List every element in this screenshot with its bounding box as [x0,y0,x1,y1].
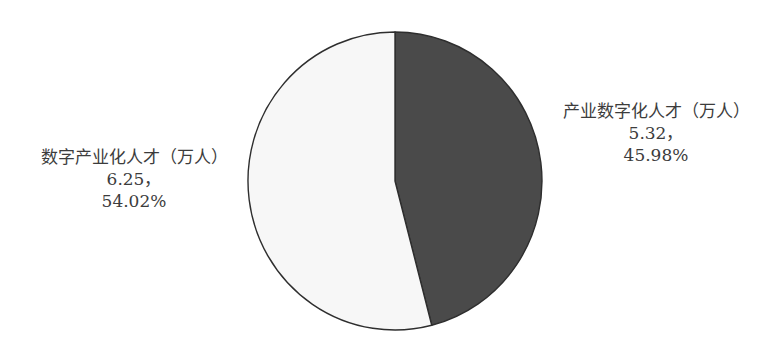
slice-value: 6.25， [18,168,250,190]
slice-percent: 54.02% [18,190,250,212]
slice-label-digital-industrialization: 数字产业化人才（万人） 6.25， 54.02% [18,146,250,212]
pie-chart: 产业数字化人才（万人） 5.32， 45.98% 数字产业化人才（万人） 6.2… [0,0,782,356]
slice-name: 产业数字化人才（万人） [536,100,776,122]
slice-label-industry-digitalization: 产业数字化人才（万人） 5.32， 45.98% [536,100,776,166]
slice-percent: 45.98% [536,144,776,166]
slice-value: 5.32， [536,122,776,144]
slice-name: 数字产业化人才（万人） [18,146,250,168]
